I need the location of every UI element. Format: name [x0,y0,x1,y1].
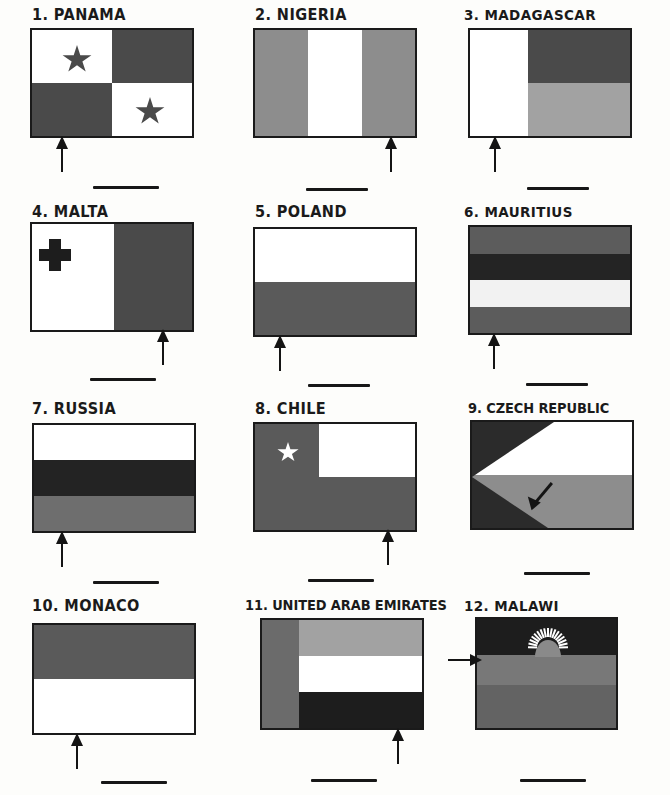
flag-graphic-mauritius [468,225,632,335]
uae-band-middle [299,656,422,692]
flag-title-chile: 8. CHILE [255,400,326,417]
malawi-band-bottom [477,685,616,728]
monaco-band-bottom [34,679,194,733]
flag-title-panama: 1. PANAMA [32,6,126,23]
nigeria-band-hoist [255,30,308,136]
flag-graphic-malawi [475,617,618,730]
flag-item-czech-republic: 9. CZECH REPUBLIC [446,394,670,591]
flag-item-poland: 5. POLAND [223,197,446,394]
flag-title-nigeria: 2. NIGERIA [255,6,347,23]
flag-graphic-monaco [32,623,196,735]
flag-graphic-russia [32,423,196,533]
answer-blank-czech-republic[interactable] [524,572,590,575]
mauritius-band-1 [470,227,630,254]
flag-graphic-chile [253,422,417,532]
nigeria-band-middle [308,30,361,136]
uae-band-bottom [299,692,422,728]
pointer-arrow-czech-republic [526,495,560,529]
poland-band-bottom [255,282,415,335]
flag-item-malta: 4. MALTA [0,197,223,394]
pointer-arrow-russia [54,531,70,567]
answer-blank-chile[interactable] [308,579,374,582]
answer-blank-malta[interactable] [90,378,156,381]
russia-band-bottom [34,496,194,531]
pointer-arrow-mauritius [486,333,502,369]
uae-band-hoist [262,620,299,728]
answer-blank-nigeria[interactable] [306,188,368,191]
flag-title-monaco: 10. MONACO [32,597,140,614]
chile-band-bottom [255,477,415,530]
flag-graphic-poland [253,227,417,337]
flag-title-malawi: 12. MALAWI [464,597,559,614]
malawi-band-middle [477,655,616,684]
flag-title-malta: 4. MALTA [32,203,108,220]
answer-blank-russia[interactable] [93,581,159,584]
flag-graphic-malta [30,222,194,332]
answer-blank-monaco[interactable] [101,781,167,784]
answer-blank-united-arab-emirates[interactable] [311,779,377,782]
panama-quadrant-top-right [112,30,192,83]
flag-item-nigeria: 2. NIGERIA [223,0,446,197]
flag-graphic-nigeria [253,28,417,138]
mauritius-band-3 [470,280,630,307]
madagascar-band-top [528,30,630,83]
worksheet-sheet: 1. PANAMA 2. NIGERIA [0,0,670,795]
monaco-band-top [34,625,194,679]
nigeria-band-fly [362,30,415,136]
pointer-arrow-madagascar [487,136,503,172]
flag-grid: 1. PANAMA 2. NIGERIA [0,0,670,795]
malta-band-fly [114,224,192,330]
malawi-rising-sun-icon [525,626,571,657]
flag-item-mauritius: 6. MAURITIUS [446,197,670,394]
flag-item-united-arab-emirates: 11. UNITED ARAB EMIRATES [223,591,446,795]
flag-graphic-united-arab-emirates [260,618,424,730]
pointer-arrow-malawi [448,653,482,667]
answer-blank-poland[interactable] [308,384,370,387]
mauritius-band-2 [470,254,630,281]
malta-band-hoist [32,224,114,330]
flag-title-russia: 7. RUSSIA [32,400,116,417]
uae-band-top [299,620,422,656]
flag-item-madagascar: 3. MADAGASCAR [446,0,670,197]
flag-graphic-panama [30,28,194,138]
pointer-arrow-poland [272,335,288,371]
flag-item-chile: 8. CHILE [223,394,446,591]
flag-item-russia: 7. RUSSIA [0,394,223,591]
flag-title-mauritius: 6. MAURITIUS [464,203,573,220]
pointer-arrow-malta [155,329,171,365]
pointer-arrow-united-arab-emirates [390,728,406,764]
answer-blank-mauritius[interactable] [526,383,588,386]
pointer-arrow-monaco [69,733,85,769]
madagascar-band-bottom [528,83,630,136]
flag-title-poland: 5. POLAND [255,203,347,220]
flag-graphic-madagascar [468,28,632,138]
mauritius-band-4 [470,307,630,334]
malta-cross-icon [49,239,61,271]
pointer-arrow-chile [380,529,396,565]
flag-title-madagascar: 3. MADAGASCAR [464,6,596,23]
russia-band-middle [34,460,194,495]
flag-item-panama: 1. PANAMA [0,0,223,197]
flag-item-malawi: 12. MALAWI [446,591,670,795]
poland-band-top [255,229,415,282]
answer-blank-malawi[interactable] [520,779,586,782]
answer-blank-panama[interactable] [93,186,159,189]
flag-item-monaco: 10. MONACO [0,591,223,795]
answer-blank-madagascar[interactable] [527,187,589,190]
russia-band-top [34,425,194,460]
flag-title-czech-republic: 9. CZECH REPUBLIC [468,400,609,416]
pointer-arrow-nigeria [383,136,399,172]
panama-quadrant-bottom-left [32,83,112,136]
flag-title-united-arab-emirates: 11. UNITED ARAB EMIRATES [245,597,447,613]
madagascar-band-hoist [470,30,528,136]
pointer-arrow-panama [54,136,70,172]
